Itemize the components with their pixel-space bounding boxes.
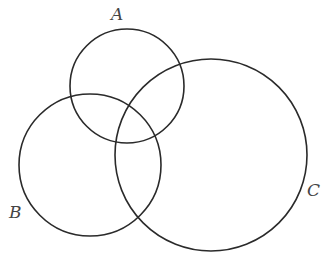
venn-diagram: A B C bbox=[0, 0, 328, 267]
label-a: A bbox=[109, 4, 123, 24]
label-c: C bbox=[307, 180, 320, 200]
circle-c bbox=[115, 59, 307, 251]
circle-a bbox=[70, 29, 184, 143]
circle-b bbox=[19, 94, 161, 236]
label-b: B bbox=[8, 202, 22, 222]
